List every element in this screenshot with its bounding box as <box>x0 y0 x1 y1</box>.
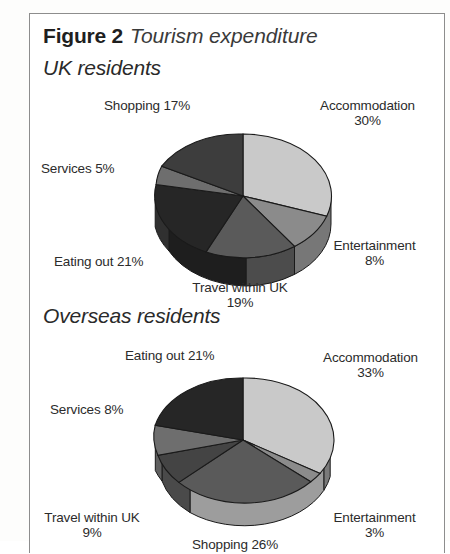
figure-frame: Figure 2Tourism expenditure UK residents <box>29 13 445 553</box>
label-os-accommodation-line1: Accommodation <box>308 350 433 366</box>
pie-overseas-top-face <box>154 378 334 503</box>
label-uk-entertainment-line2: 8% <box>312 253 437 269</box>
label-uk-accommodation-line1: Accommodation <box>305 98 430 114</box>
label-os-accommodation-line2: 33% <box>308 365 433 381</box>
label-os-services: Services 8% <box>50 402 123 418</box>
label-os-travel-line2: 9% <box>22 525 162 541</box>
section-heading-uk: UK residents <box>43 56 161 80</box>
pie-chart-uk-residents: Shopping 17% Accommodation 30% Services … <box>30 86 444 301</box>
label-uk-services: Services 5% <box>41 161 114 177</box>
pie-uk-top-face <box>155 134 332 258</box>
figure-title: Tourism expenditure <box>130 24 318 47</box>
pie-chart-overseas-residents: Eating out 21% Accommodation 33% Service… <box>30 332 444 554</box>
label-uk-entertainment-line1: Entertainment <box>312 238 437 254</box>
label-uk-eating-out: Eating out 21% <box>54 254 143 270</box>
figure-number: Figure 2 <box>43 24 123 47</box>
figure-caption: Figure 2Tourism expenditure <box>43 24 318 48</box>
label-os-entertainment-line1: Entertainment <box>312 510 437 526</box>
label-os-travel-line1: Travel within UK <box>22 510 162 526</box>
label-os-eating-out: Eating out 21% <box>125 348 214 364</box>
label-os-entertainment-line2: 3% <box>312 525 437 541</box>
label-uk-shopping: Shopping 17% <box>104 98 190 114</box>
label-uk-travel-line1: Travel within UK <box>170 280 310 296</box>
section-heading-overseas: Overseas residents <box>43 304 220 328</box>
label-os-shopping: Shopping 26% <box>155 537 315 553</box>
label-uk-accommodation-line2: 30% <box>305 113 430 129</box>
